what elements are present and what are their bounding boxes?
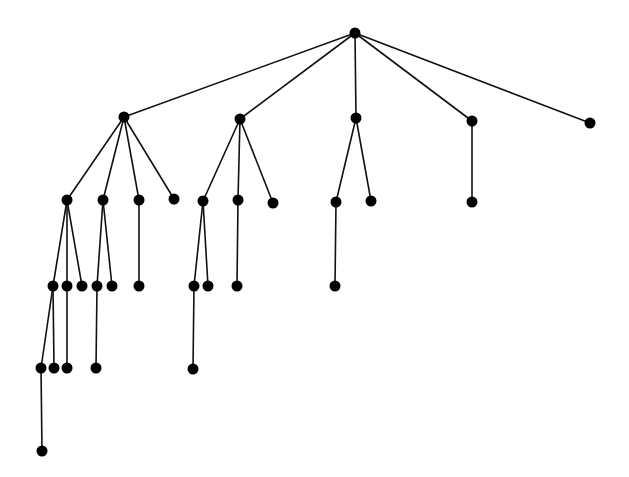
tree-edge bbox=[237, 200, 238, 286]
tree-edge bbox=[124, 33, 355, 117]
tree-edge bbox=[240, 33, 355, 119]
tree-node bbox=[203, 281, 214, 292]
tree-edge bbox=[355, 33, 590, 123]
tree-edge bbox=[356, 118, 371, 201]
tree-node bbox=[62, 195, 73, 206]
tree-node bbox=[134, 281, 145, 292]
tree-edge bbox=[238, 119, 240, 200]
tree-edge bbox=[193, 286, 194, 369]
tree-node bbox=[49, 363, 60, 374]
tree-node bbox=[48, 281, 59, 292]
tree-edge bbox=[203, 201, 208, 286]
tree-edge bbox=[240, 119, 273, 203]
tree-node bbox=[331, 197, 342, 208]
tree-node bbox=[62, 281, 73, 292]
tree-edge bbox=[103, 117, 124, 200]
tree-edge bbox=[67, 117, 124, 200]
tree-edge bbox=[97, 200, 103, 286]
tree-node bbox=[232, 281, 243, 292]
tree-edge bbox=[96, 286, 97, 368]
tree-node bbox=[37, 446, 48, 457]
tree-diagram bbox=[0, 0, 629, 477]
tree-node bbox=[92, 281, 103, 292]
tree-node bbox=[235, 114, 246, 125]
tree-node bbox=[233, 195, 244, 206]
tree-edge bbox=[41, 286, 53, 368]
tree-edge bbox=[355, 33, 356, 118]
tree-edge bbox=[53, 200, 67, 286]
tree-edge bbox=[203, 119, 240, 201]
tree-node bbox=[62, 363, 73, 374]
tree-node bbox=[366, 196, 377, 207]
tree-edge bbox=[67, 200, 82, 286]
tree-node bbox=[585, 118, 596, 129]
tree-node bbox=[467, 116, 478, 127]
tree-node bbox=[268, 198, 279, 209]
tree-node bbox=[467, 197, 478, 208]
edges-layer bbox=[41, 33, 590, 451]
tree-node bbox=[189, 281, 200, 292]
tree-edge bbox=[103, 200, 112, 286]
tree-root-node bbox=[350, 28, 361, 39]
tree-edge bbox=[335, 202, 336, 286]
tree-node bbox=[119, 112, 130, 123]
tree-edge bbox=[336, 118, 356, 202]
tree-edge bbox=[355, 33, 472, 121]
tree-node bbox=[330, 281, 341, 292]
tree-node bbox=[36, 363, 47, 374]
tree-node bbox=[107, 281, 118, 292]
tree-edge bbox=[53, 286, 54, 368]
tree-node bbox=[198, 196, 209, 207]
tree-edge bbox=[41, 368, 42, 451]
tree-node bbox=[351, 113, 362, 124]
tree-node bbox=[98, 195, 109, 206]
tree-node bbox=[91, 363, 102, 374]
tree-edge bbox=[194, 201, 203, 286]
tree-node bbox=[77, 281, 88, 292]
tree-node bbox=[169, 194, 180, 205]
tree-node bbox=[188, 364, 199, 375]
tree-node bbox=[134, 195, 145, 206]
nodes-layer bbox=[36, 28, 596, 457]
